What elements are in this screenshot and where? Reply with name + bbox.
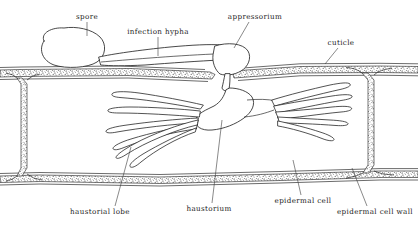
label-spore: spore bbox=[76, 12, 98, 21]
label-cuticle: cuticle bbox=[328, 38, 355, 47]
label-epidermal-cell-wall: epidermal cell wall bbox=[337, 207, 413, 216]
label-haustorial-lobe: haustorial lobe bbox=[70, 207, 130, 216]
diagram-root: spore infection hypha appressorium cutic… bbox=[0, 0, 418, 225]
leader-appressorium bbox=[234, 22, 249, 48]
haustorium-diagram: spore infection hypha appressorium cutic… bbox=[0, 0, 418, 225]
label-appressorium: appressorium bbox=[228, 12, 282, 21]
label-infection-hypha: infection hypha bbox=[127, 27, 189, 36]
label-epidermal-cell: epidermal cell bbox=[275, 196, 332, 205]
leader-cuticle bbox=[325, 48, 338, 64]
spore bbox=[41, 27, 104, 67]
infection-hypha bbox=[99, 45, 223, 66]
label-haustorium: haustorium bbox=[186, 204, 231, 213]
